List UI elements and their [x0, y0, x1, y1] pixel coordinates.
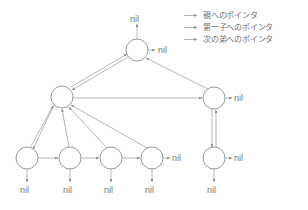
nodes-group [16, 39, 225, 169]
nil-label-leaf-4-child: nil [145, 185, 154, 195]
nil-label-leaf-4-sibling: nil [172, 153, 181, 163]
diagram-canvas: nil nil nil nil nil nil nil nil nil nil … [0, 0, 308, 210]
edge-midleft-parent-root [71, 54, 127, 87]
nil-label-leaf-2-child: nil [63, 185, 72, 195]
legend-label-parent-pointer: 親へのポインタ [203, 10, 258, 21]
nil-label-leaf-5-sibling: nil [234, 153, 243, 163]
nil-label-root-sibling: nil [158, 45, 167, 55]
node-mid-right[interactable] [203, 87, 225, 109]
node-leaf-5[interactable] [203, 147, 225, 169]
edge-leaf3-parent-midleft [69, 107, 107, 148]
legend-label-next-sibling-pointer: 次の弟へのポインタ [203, 34, 273, 45]
edge-leaf1-parent-midleft [30, 106, 53, 148]
edge-root-firstchild-midleft [72, 57, 128, 90]
legend-item-parent-pointer: 親へのポインタ [183, 10, 305, 21]
first-child-pointer-arrow-icon [183, 22, 203, 33]
nil-label-leaf-1-child: nil [20, 185, 29, 195]
legend-item-next-sibling-pointer: 次の弟へのポインタ [183, 34, 305, 45]
legend: 親へのポインタ 第一子へのポインタ 次の弟へのポインタ [183, 10, 305, 46]
next-sibling-pointer-arrow-icon [183, 34, 203, 45]
edge-leaf4-parent-midleft [71, 105, 147, 148]
legend-item-first-child-pointer: 第一子へのポインタ [183, 22, 305, 33]
nil-label-leaf-5-child: nil [207, 185, 216, 195]
node-leaf-4[interactable] [141, 147, 163, 169]
parent-pointer-arrow-icon [183, 10, 203, 21]
node-leaf-1[interactable] [16, 147, 38, 169]
edge-leaf2-parent-midleft [62, 109, 69, 147]
node-leaf-2[interactable] [59, 147, 81, 169]
nil-label-mid-right-sibling: nil [234, 93, 243, 103]
nil-label-root-parent: nil [130, 14, 139, 24]
node-leaf-3[interactable] [100, 147, 122, 169]
node-mid-left[interactable] [51, 86, 73, 108]
node-root[interactable] [126, 39, 148, 61]
legend-label-first-child-pointer: 第一子へのポインタ [203, 22, 273, 33]
nil-label-leaf-3-child: nil [104, 185, 113, 195]
edge-midleft-firstchild-leaf1 [33, 105, 54, 149]
edge-midright-parent-root [146, 58, 208, 89]
